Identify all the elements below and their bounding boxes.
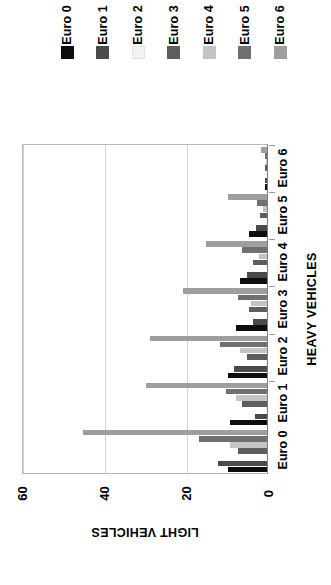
bar-slot — [23, 178, 267, 184]
bar-euro-5-euro-1[interactable] — [256, 225, 267, 231]
bar-slot — [23, 325, 267, 331]
bar-slot — [23, 342, 267, 348]
bar-slot — [23, 436, 267, 442]
bar-group-euro-0 — [23, 428, 267, 475]
category-axis-title-text: HEAVY VEHICLES — [305, 252, 319, 366]
bar-euro-0-euro-6[interactable] — [83, 430, 268, 436]
legend-item-euro-1[interactable]: Euro 1 — [86, 18, 120, 59]
bar-euro-0-euro-4[interactable] — [230, 442, 267, 448]
bar-slot — [23, 395, 267, 401]
bar-euro-3-euro-3[interactable] — [249, 307, 267, 313]
bar-slot — [23, 194, 267, 200]
bar-euro-1-euro-2[interactable] — [266, 407, 267, 413]
bar-euro-0-euro-5[interactable] — [199, 436, 267, 442]
bar-euro-6-euro-6[interactable] — [261, 147, 267, 153]
bar-euro-4-euro-3[interactable] — [253, 260, 267, 266]
plot-box — [22, 144, 268, 474]
legend-item-euro-5[interactable]: Euro 5 — [228, 18, 262, 59]
value-axis-title: LIGHT VEHICLES — [0, 518, 290, 546]
bar-euro-4-euro-5[interactable] — [242, 247, 267, 253]
bar-euro-3-euro-1[interactable] — [253, 319, 267, 325]
bar-slot — [23, 241, 267, 247]
bar-slot — [23, 153, 267, 159]
bar-euro-0-euro-3[interactable] — [238, 448, 267, 454]
bar-group-euro-2 — [23, 334, 267, 381]
category-tick-euro-5: Euro 5 — [268, 191, 298, 238]
category-tick-euro-4: Euro 4 — [268, 238, 298, 285]
category-tick-label: Euro 6 — [276, 148, 290, 187]
bar-euro-3-euro-0[interactable] — [236, 325, 267, 331]
bar-euro-4-euro-4[interactable] — [259, 254, 267, 260]
bar-euro-1-euro-3[interactable] — [242, 401, 267, 407]
bar-slot — [23, 348, 267, 354]
bar-euro-5-euro-6[interactable] — [228, 194, 267, 200]
bar-euro-4-euro-1[interactable] — [247, 272, 268, 278]
bar-euro-1-euro-4[interactable] — [236, 395, 267, 401]
category-axis-tick-labels: Euro 0Euro 1Euro 2Euro 3Euro 4Euro 5Euro… — [268, 144, 298, 474]
legend-item-euro-0[interactable]: Euro 0 — [50, 18, 84, 59]
bar-euro-6-euro-1[interactable] — [265, 178, 267, 184]
bar-euro-6-euro-4[interactable] — [266, 159, 267, 165]
legend-item-euro-4[interactable]: Euro 4 — [192, 18, 226, 59]
category-tick-label: Euro 4 — [276, 242, 290, 281]
legend-item-euro-6[interactable]: Euro 6 — [263, 18, 297, 59]
bar-slot — [23, 420, 267, 426]
bar-euro-5-euro-0[interactable] — [249, 231, 267, 237]
bar-slot — [23, 407, 267, 413]
bar-slot — [23, 225, 267, 231]
bar-slot — [23, 272, 267, 278]
bar-euro-5-euro-4[interactable] — [263, 206, 267, 212]
category-tick-euro-3: Euro 3 — [268, 285, 298, 332]
bar-euro-2-euro-6[interactable] — [150, 336, 267, 342]
bar-slot — [23, 336, 267, 342]
bar-euro-1-euro-5[interactable] — [226, 389, 267, 395]
legend-item-label: Euro 2 — [131, 0, 145, 53]
bar-euro-6-euro-3[interactable] — [265, 165, 267, 171]
bar-slot — [23, 373, 267, 379]
bar-euro-2-euro-0[interactable] — [228, 373, 267, 379]
bar-slot — [23, 442, 267, 448]
bar-euro-5-euro-3[interactable] — [260, 213, 267, 219]
bar-euro-1-euro-1[interactable] — [255, 414, 267, 420]
bar-euro-2-euro-3[interactable] — [247, 354, 268, 360]
chart-legend: Euro 0Euro 1Euro 2Euro 3Euro 4Euro 5Euro… — [0, 0, 331, 122]
bar-slot — [23, 295, 267, 301]
bar-euro-6-euro-2[interactable] — [266, 172, 267, 178]
bar-euro-2-euro-2[interactable] — [266, 360, 267, 366]
legend-item-euro-2[interactable]: Euro 2 — [121, 18, 155, 59]
bar-euro-3-euro-6[interactable] — [183, 288, 267, 294]
bar-euro-5-euro-2[interactable] — [266, 219, 267, 225]
bar-euro-2-euro-5[interactable] — [220, 342, 267, 348]
bar-euro-0-euro-0[interactable] — [228, 467, 267, 473]
bar-euro-1-euro-0[interactable] — [230, 420, 267, 426]
bar-euro-6-euro-0[interactable] — [265, 184, 267, 190]
bar-euro-4-euro-2[interactable] — [266, 266, 267, 272]
bar-euro-4-euro-0[interactable] — [240, 278, 267, 284]
bar-euro-4-euro-6[interactable] — [206, 241, 268, 247]
bar-slot — [23, 366, 267, 372]
category-tick-euro-0: Euro 0 — [268, 427, 298, 474]
bar-slot — [23, 383, 267, 389]
bar-euro-5-euro-5[interactable] — [257, 200, 267, 206]
bar-euro-2-euro-1[interactable] — [234, 366, 267, 372]
bar-slot — [23, 354, 267, 360]
bar-euro-2-euro-4[interactable] — [240, 348, 267, 354]
legend-item-euro-3[interactable]: Euro 3 — [157, 18, 191, 59]
value-tick-40: 40 — [87, 478, 121, 508]
value-tick-20: 20 — [169, 478, 203, 508]
bar-euro-0-euro-2[interactable] — [266, 454, 267, 460]
bar-group-euro-3 — [23, 286, 267, 333]
bar-slot — [23, 461, 267, 467]
bar-euro-3-euro-2[interactable] — [266, 313, 267, 319]
category-tick-label: Euro 0 — [276, 431, 290, 470]
bar-slot — [23, 467, 267, 473]
bar-euro-0-euro-1[interactable] — [218, 461, 267, 467]
bar-group-euro-5 — [23, 192, 267, 239]
bar-euro-6-euro-5[interactable] — [265, 153, 267, 159]
legend-item-label: Euro 1 — [96, 0, 110, 53]
bar-euro-1-euro-6[interactable] — [146, 383, 267, 389]
bar-euro-3-euro-5[interactable] — [238, 295, 267, 301]
bar-slot — [23, 165, 267, 171]
bar-euro-3-euro-4[interactable] — [251, 301, 267, 307]
value-tick-60: 60 — [5, 478, 39, 508]
